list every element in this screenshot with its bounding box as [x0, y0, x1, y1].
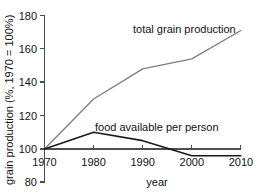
- y-tick-label-140: 140: [19, 76, 37, 88]
- x-tick-label-1980: 1980: [81, 156, 105, 168]
- x-tick-label-2010: 2010: [229, 156, 253, 168]
- y-tick-label-180: 180: [19, 10, 37, 22]
- y-tick-label-120: 120: [19, 110, 37, 122]
- x-tick-label-1970: 1970: [32, 156, 56, 168]
- x-tick-label-1990: 1990: [130, 156, 154, 168]
- chart-figure: 180 160 140 120 100 80 grain production …: [0, 0, 258, 196]
- y-tick-label-100: 100: [19, 143, 37, 155]
- series-line-food-available-per-person: [45, 132, 241, 155]
- y-tick-label-80: 80: [25, 176, 37, 188]
- y-tick-label-160: 160: [19, 43, 37, 55]
- y-axis-title: grain production (%, 1970 = 100%): [3, 15, 15, 185]
- x-tick-label-2000: 2000: [180, 156, 204, 168]
- series-annotation-food-available-per-person: food available per person: [95, 121, 219, 133]
- line-chart: 180 160 140 120 100 80 grain production …: [0, 0, 258, 196]
- x-axis-title: year: [146, 176, 168, 188]
- series-annotation-total-grain-production: total grain production: [133, 23, 236, 35]
